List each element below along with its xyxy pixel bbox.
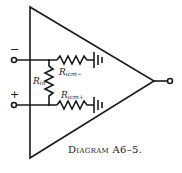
junction-dot-bottom	[48, 104, 50, 106]
inverting-input-terminal	[12, 58, 17, 63]
noninverting-input-terminal	[12, 103, 17, 108]
r-icm-minus-label: Ricm−	[59, 68, 82, 77]
r-icm-minus-resistor	[57, 56, 94, 64]
output-terminal	[168, 79, 173, 84]
inverting-sign-label: −	[10, 44, 19, 55]
r-in-resistor	[45, 60, 53, 105]
diagram-canvas: − + Rin Ricm− Ricm+ Diagram A6–5.	[0, 0, 182, 173]
r-in-label: Rin	[33, 77, 46, 86]
diagram-caption: Diagram A6–5.	[68, 145, 142, 155]
r-icm-plus-resistor	[57, 101, 94, 109]
junction-dot-top	[48, 59, 50, 61]
noninverting-sign-label: +	[10, 89, 19, 100]
r-icm-plus-label: Ricm+	[61, 91, 84, 100]
